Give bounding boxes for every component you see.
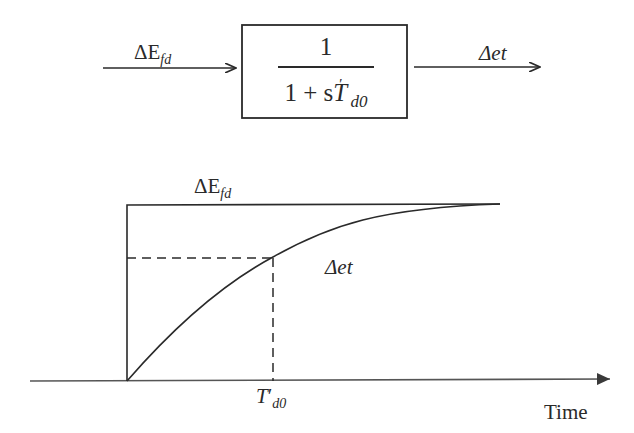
- response-curve-label: Δet: [325, 257, 352, 278]
- step-input-line: [127, 204, 500, 381]
- step-input-label: ΔEfd: [194, 176, 231, 201]
- time-axis: [30, 379, 610, 381]
- time-constant-label: T′d0: [256, 386, 286, 411]
- transfer-function-denominator: 1 + sT′d0: [256, 68, 396, 106]
- output-label: Δet: [479, 43, 506, 64]
- x-axis-label: Time: [544, 400, 588, 425]
- input-label: ΔEfd: [134, 42, 171, 67]
- exponential-response-curve: [127, 204, 500, 381]
- transfer-function-numerator: 1: [256, 30, 396, 64]
- transfer-function: 1 1 + sT′d0: [256, 30, 396, 106]
